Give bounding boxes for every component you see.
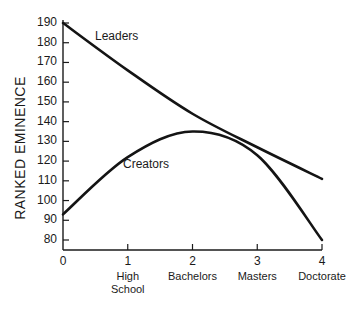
x-tick-label: 1 <box>118 254 138 268</box>
y-tick-label: 80 <box>27 232 57 246</box>
y-tick-label: 130 <box>27 133 57 147</box>
y-tick-label: 180 <box>27 35 57 49</box>
y-tick-label: 150 <box>27 94 57 108</box>
y-axis-label: RANKED EMINENCE <box>12 73 28 223</box>
y-tick-label: 160 <box>27 74 57 88</box>
y-tick-label: 190 <box>27 15 57 29</box>
y-tick-label: 140 <box>27 114 57 128</box>
series-line-leaders <box>63 23 322 179</box>
x-category-label: Doctorate <box>287 270 350 283</box>
x-tick-label: 3 <box>247 254 267 268</box>
x-category-label: High School <box>93 270 163 296</box>
x-tick-label: 0 <box>53 254 73 268</box>
x-category-label: Masters <box>222 270 292 283</box>
y-tick-label: 110 <box>27 173 57 187</box>
series-label-leaders: Leaders <box>95 29 138 43</box>
y-tick-label: 170 <box>27 54 57 68</box>
x-tick-label: 2 <box>183 254 203 268</box>
y-tick-label: 100 <box>27 193 57 207</box>
series-line-creators <box>63 131 322 240</box>
y-tick-label: 90 <box>27 212 57 226</box>
x-tick-label: 4 <box>312 254 332 268</box>
series-label-creators: Creators <box>123 157 169 171</box>
x-category-label: Bachelors <box>158 270 228 283</box>
y-tick-label: 120 <box>27 153 57 167</box>
